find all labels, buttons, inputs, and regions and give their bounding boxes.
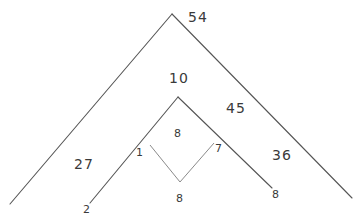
inner-left-arm xyxy=(90,97,178,203)
label-bottom-right: 8 xyxy=(272,188,280,201)
label-right-region: 45 xyxy=(226,100,246,116)
inner-v-right xyxy=(180,143,214,182)
label-bottom-left: 2 xyxy=(83,203,91,216)
outer-right-arm xyxy=(172,14,352,198)
label-inner-top: 10 xyxy=(169,70,189,86)
inner-right-arm xyxy=(178,97,272,188)
label-bottom-middle: 8 xyxy=(176,192,184,205)
label-left-region: 27 xyxy=(74,156,94,172)
label-inner-center: 8 xyxy=(174,127,182,140)
label-inner-right-corner: 7 xyxy=(215,142,223,155)
outer-left-arm xyxy=(10,14,172,204)
inner-v-left xyxy=(150,145,180,182)
label-right-outer-region: 36 xyxy=(272,147,292,163)
label-outer-top: 54 xyxy=(188,9,208,25)
pyramid-diagram: 54 10 45 8 27 36 1 7 2 8 8 xyxy=(0,0,362,222)
label-inner-left-corner: 1 xyxy=(136,146,144,159)
